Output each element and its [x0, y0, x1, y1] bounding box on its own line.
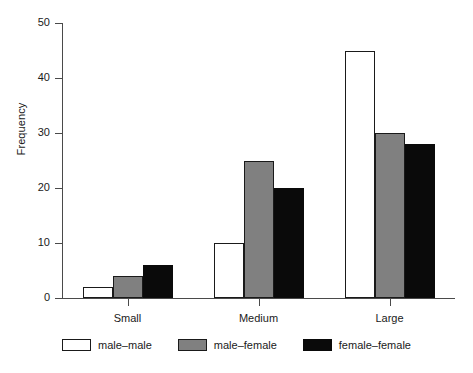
legend-swatch — [62, 339, 91, 351]
legend-item: male–male — [62, 339, 152, 351]
y-axis-tick-label: 20 — [38, 181, 50, 193]
y-axis-tick-label: 30 — [38, 126, 50, 138]
legend: male–malemale–femalefemale–female — [0, 339, 473, 351]
y-axis-tick-label: 10 — [38, 236, 50, 248]
legend-item: male–female — [178, 339, 277, 351]
y-axis-tick: 50 — [55, 23, 62, 24]
bar — [375, 133, 405, 298]
y-axis-tick-label: 40 — [38, 71, 50, 83]
legend-label: female–female — [339, 339, 411, 351]
bar-chart: Frequency 01020304050SmallMediumLarge ma… — [0, 0, 473, 373]
x-axis-tick — [259, 299, 260, 306]
bar — [214, 243, 244, 298]
legend-label: male–female — [214, 339, 277, 351]
legend-item: female–female — [303, 339, 411, 351]
x-axis-tick-label: Small — [114, 312, 142, 324]
y-axis-tick: 10 — [55, 243, 62, 244]
y-axis-title: Frequency — [15, 84, 27, 174]
bar — [345, 51, 375, 299]
x-axis-tick — [128, 299, 129, 306]
x-axis-tick — [390, 299, 391, 306]
x-axis-tick-label: Medium — [239, 312, 278, 324]
y-axis-line — [62, 23, 63, 299]
x-axis-tick-label: Large — [375, 312, 403, 324]
y-axis-tick: 0 — [55, 298, 62, 299]
bar — [113, 276, 143, 298]
legend-swatch — [178, 339, 207, 351]
legend-swatch — [303, 339, 332, 351]
bar — [405, 144, 435, 298]
bar — [244, 161, 274, 299]
y-axis-tick: 30 — [55, 133, 62, 134]
y-axis-tick-label: 0 — [44, 291, 50, 303]
y-axis-tick: 40 — [55, 78, 62, 79]
bar — [274, 188, 304, 298]
y-axis-tick: 20 — [55, 188, 62, 189]
bar — [83, 287, 113, 298]
y-axis-tick-label: 50 — [38, 16, 50, 28]
bar — [143, 265, 173, 298]
plot-area: 01020304050SmallMediumLarge — [62, 23, 455, 298]
legend-label: male–male — [98, 339, 152, 351]
